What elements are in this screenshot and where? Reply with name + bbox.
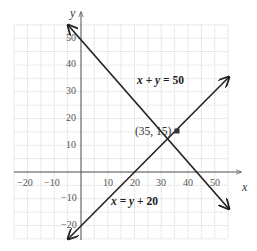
y-tick: 50 — [66, 32, 76, 43]
y-tick: 40 — [66, 58, 76, 69]
line-x-equals-y-plus-20 — [68, 77, 229, 239]
eq1-op: + — [143, 74, 155, 86]
intersection-label: (35, 15) — [135, 125, 172, 138]
y-tick: 30 — [66, 85, 76, 96]
line-x-plus-y-equals-50 — [68, 25, 229, 209]
x-axis-label: x — [241, 180, 248, 194]
y-axis-label: y — [69, 6, 76, 20]
x-tick: 20 — [130, 177, 140, 188]
linear-system-graph: x y −20 −10 10 20 30 40 50 50 40 30 20 1… — [0, 0, 257, 251]
x-tick: −20 — [17, 177, 33, 188]
x-tick: 40 — [183, 177, 193, 188]
y-tick: −10 — [61, 192, 77, 203]
x-tick: 30 — [156, 177, 166, 188]
x-tick: 10 — [103, 177, 113, 188]
y-tick: −20 — [61, 219, 77, 230]
eq2-rest: + 20 — [134, 195, 158, 207]
eq2-eq: = — [117, 195, 129, 207]
y-tick: 20 — [66, 112, 76, 123]
y-tick: 10 — [66, 139, 76, 150]
equation-label-2: x = y + 20 — [110, 195, 158, 208]
x-tick: −10 — [44, 177, 60, 188]
intersection-point — [175, 129, 180, 134]
x-tick: 50 — [210, 177, 220, 188]
y-tick-labels: 50 40 30 20 10 −10 −20 — [61, 32, 77, 230]
equation-label-1: x + y = 50 — [136, 74, 184, 87]
eq1-rest: = 50 — [160, 74, 184, 86]
x-tick-labels: −20 −10 10 20 30 40 50 — [17, 177, 220, 188]
